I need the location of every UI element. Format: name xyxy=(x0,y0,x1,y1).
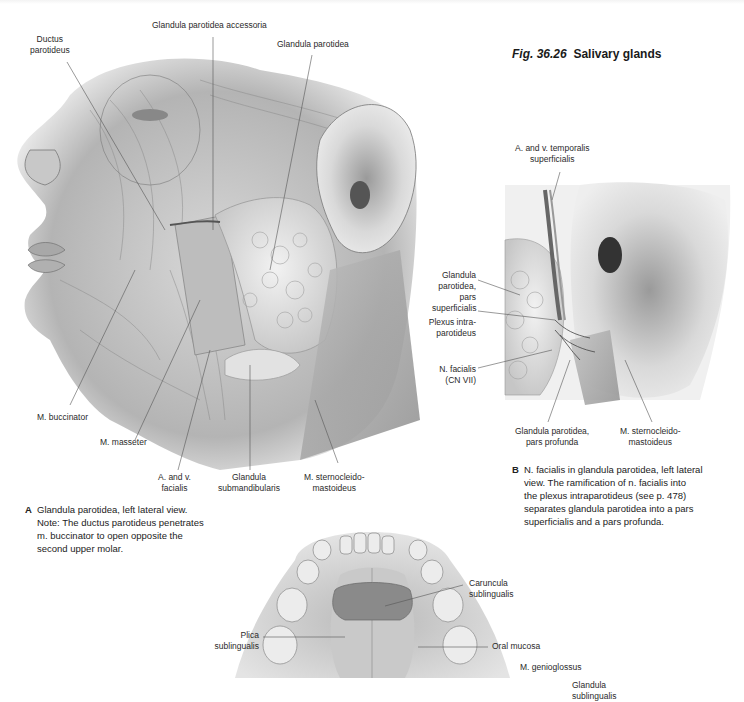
label-plexus-intraparotideus: Plexus intra- parotideus xyxy=(418,317,476,339)
label-a-v-facialis: A. and v. facialis xyxy=(158,472,191,494)
label-glandula-parotidea-pars-superficialis: Glandula parotidea, pars superficialis xyxy=(432,270,476,314)
label-m-sternocleidomastoideus-a: M. sternocleido- mastoideus xyxy=(304,472,364,494)
figure-number: Fig. 36.26 xyxy=(512,47,567,61)
caption-panel-a: A Glandula parotidea, left lateral view.… xyxy=(37,503,204,555)
ear-detail-illustration xyxy=(505,182,730,405)
label-caruncula-sublingualis: Caruncula sublingualis xyxy=(469,578,513,600)
label-glandula-sublingualis: Glandula sublingualis xyxy=(572,680,616,702)
label-m-sternocleidomastoideus-b: M. sternocleido- mastoideus xyxy=(620,426,680,448)
label-ductus-parotideus: Ductus parotideus xyxy=(30,34,70,56)
caption-panel-b: B N. facialis in glandula parotidea, lef… xyxy=(524,463,703,528)
label-n-facialis: N. facialis (CN VII) xyxy=(418,364,476,386)
label-oral-mucosa: Oral mucosa xyxy=(492,641,540,652)
label-a-v-temporalis-superficialis: A. and v. temporalis superficialis xyxy=(515,143,590,165)
figure-title: Fig. 36.26 Salivary glands xyxy=(512,47,661,61)
panel-letter-a: A xyxy=(25,503,32,516)
label-m-masseter: M. masseter xyxy=(100,437,147,448)
label-glandula-parotidea-pars-profunda: Glandula parotidea, pars profunda xyxy=(515,426,589,448)
label-plica-sublingualis: Plica sublingualis xyxy=(205,630,259,652)
label-glandula-parotidea: Glandula parotidea xyxy=(277,39,349,50)
head-lateral-illustration xyxy=(17,59,420,470)
panel-letter-b: B xyxy=(512,463,519,476)
label-glandula-parotidea-accessoria: Glandula parotidea accessoria xyxy=(152,20,267,31)
floor-of-mouth-illustration xyxy=(235,532,510,678)
figure-title-text: Salivary glands xyxy=(573,47,661,61)
label-m-genioglossus: M. genioglossus xyxy=(520,662,581,673)
label-m-buccinator: M. buccinator xyxy=(37,412,88,423)
label-glandula-submandibularis: Glandula submandibularis xyxy=(218,472,280,494)
